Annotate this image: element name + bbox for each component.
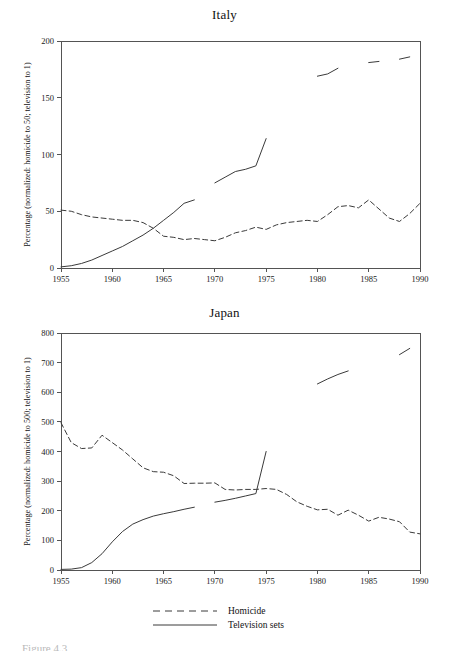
y-tick-label: 300 xyxy=(41,476,54,486)
chart-panel-japan: Japan 0100200300400500600700800195519601… xyxy=(0,300,449,600)
series-path-television-sets xyxy=(369,61,379,62)
x-tick-label: 1985 xyxy=(360,274,377,284)
series-path-television-sets xyxy=(215,139,266,183)
x-tick-label: 1970 xyxy=(206,576,223,586)
x-tick-label: 1960 xyxy=(104,576,121,586)
series-path-television-sets xyxy=(215,452,266,503)
y-tick-label: 500 xyxy=(41,417,54,427)
chart-panel-italy: Italy 0501001502001955196019651970197519… xyxy=(0,0,449,300)
series-path-television-sets xyxy=(317,371,348,384)
y-tick-label: 100 xyxy=(41,150,54,160)
y-tick-label: 200 xyxy=(41,36,54,46)
series-path-television-sets xyxy=(399,57,409,59)
y-tick-label: 100 xyxy=(41,535,54,545)
x-tick-label: 1980 xyxy=(309,576,326,586)
x-tick-label: 1985 xyxy=(360,576,377,586)
figure-root: Italy 0501001502001955196019651970197519… xyxy=(0,0,449,651)
figure-caption: Figure 4.3 xyxy=(22,642,449,651)
series-path-television-sets xyxy=(61,507,194,569)
solid-line-swatch-icon xyxy=(152,620,218,630)
y-tick-label: 400 xyxy=(41,447,54,457)
legend-item-television-sets: Television sets xyxy=(0,617,449,632)
legend-item-homicide: Homicide xyxy=(0,603,449,618)
y-tick-label: 600 xyxy=(41,387,54,397)
x-tick-label: 1965 xyxy=(155,274,172,284)
x-tick-label: 1990 xyxy=(412,274,429,284)
x-tick-label: 1980 xyxy=(309,274,326,284)
plot-area-italy: 0501001502001955196019651970197519801985… xyxy=(0,0,449,300)
plot-area-japan: 0100200300400500600700800195519601965197… xyxy=(0,300,449,600)
chart-legend: Homicide Television sets xyxy=(0,603,449,637)
legend-label-homicide: Homicide xyxy=(228,606,265,616)
x-tick-label: 1965 xyxy=(155,576,172,586)
x-tick-label: 1970 xyxy=(206,274,223,284)
y-tick-label: 200 xyxy=(41,506,54,516)
x-tick-label: 1990 xyxy=(412,576,429,586)
x-tick-label: 1960 xyxy=(104,274,121,284)
x-tick-label: 1975 xyxy=(258,576,275,586)
series-path-television-sets xyxy=(317,68,338,76)
y-axis-title: Percentage (normalized: homicide to 500;… xyxy=(23,357,32,546)
y-tick-label: 0 xyxy=(50,565,54,575)
x-tick-label: 1955 xyxy=(53,576,70,586)
series-path-homicide xyxy=(61,200,420,241)
y-tick-label: 700 xyxy=(41,358,54,368)
y-tick-label: 800 xyxy=(41,328,54,338)
y-tick-label: 50 xyxy=(46,206,55,216)
figure-caption-strip: Figure 4.3 xyxy=(0,642,449,651)
x-tick-label: 1955 xyxy=(53,274,70,284)
series-path-homicide xyxy=(61,423,420,534)
y-tick-label: 0 xyxy=(50,263,54,273)
y-tick-label: 150 xyxy=(41,93,54,103)
legend-label-television-sets: Television sets xyxy=(228,620,284,630)
series-path-television-sets xyxy=(399,348,409,354)
dashed-line-swatch-icon xyxy=(152,606,218,616)
series-path-television-sets xyxy=(61,200,194,267)
y-axis-title: Percentage (normalized: homicide to 50; … xyxy=(23,62,32,247)
x-tick-label: 1975 xyxy=(258,274,275,284)
